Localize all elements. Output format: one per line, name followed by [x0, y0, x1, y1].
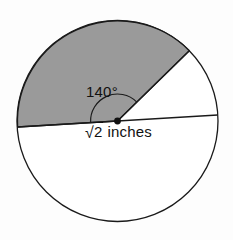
- circle-sector-figure: 140° √2 inches: [0, 0, 233, 240]
- angle-measure-label: 140°: [86, 83, 118, 100]
- circle-diagram-svg: [0, 0, 233, 240]
- square-root-radicand: 2: [93, 122, 103, 140]
- radius-unit-text: inches: [107, 123, 152, 140]
- radius-measure-label: √2 inches: [85, 123, 152, 140]
- square-root-sign: √: [85, 124, 94, 141]
